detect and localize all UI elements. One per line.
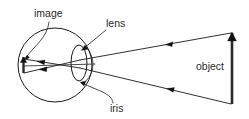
upper-ray-incident bbox=[80, 33, 231, 60]
label-object: object bbox=[196, 60, 224, 72]
upper-ray-arrowhead-inner bbox=[39, 67, 47, 72]
lens-shape bbox=[71, 45, 87, 81]
upper-ray-arrowhead-outer bbox=[166, 42, 173, 47]
optics-diagram-canvas: image lens iris object bbox=[0, 0, 249, 119]
lens-leader-line bbox=[83, 30, 106, 49]
label-iris: iris bbox=[110, 102, 123, 114]
image-leader-line bbox=[26, 22, 50, 58]
lower-ray-arrowhead-inner bbox=[37, 60, 45, 65]
optics-ray-diagram-svg: image lens iris object bbox=[0, 0, 249, 119]
iris-leader-line bbox=[82, 83, 113, 103]
label-image: image bbox=[34, 7, 63, 19]
lower-ray-arrowhead-outer bbox=[167, 88, 175, 93]
lower-ray-incident bbox=[80, 68, 231, 104]
iris-leader-arrowhead bbox=[80, 81, 86, 86]
label-lens: lens bbox=[106, 17, 125, 29]
